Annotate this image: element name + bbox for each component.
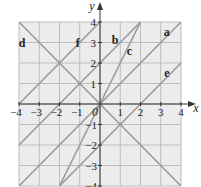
x-tick-label: 1 [118,106,124,118]
x-tick-label: −1 [71,106,83,118]
x-tick-label: −3 [30,106,42,118]
y-tick-label: −4 [85,180,97,187]
x-axis-label: x [192,101,199,115]
line-label-c: c [127,44,133,58]
coordinate-diagram: −4−3−2−1123401234−1−2−3−4xyabcdef [0,0,201,187]
line-label-a: a [164,25,170,39]
x-tick-label: −2 [51,106,63,118]
x-tick-label: 4 [178,106,184,118]
y-tick-label: 1 [91,78,97,90]
y-tick-label: −1 [85,119,97,131]
y-tick-label: 3 [91,37,97,49]
y-tick-label: 2 [91,57,97,69]
y-axis-label: y [88,0,95,13]
line-label-b: b [112,33,119,47]
y-axis-arrow-icon [97,2,103,10]
line-label-e: e [164,66,170,80]
x-tick-label: 2 [138,106,144,118]
line-label-d: d [19,36,26,50]
y-tick-label: 4 [91,16,97,28]
y-tick-label: −2 [85,139,97,151]
origin-label: 0 [92,105,98,119]
x-tick-label: −4 [10,106,22,118]
y-tick-label: −3 [85,160,97,172]
x-tick-label: 3 [158,106,164,118]
